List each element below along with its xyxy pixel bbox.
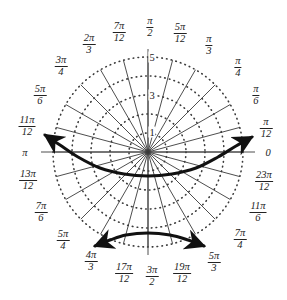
fraction-denominator: 12: [19, 180, 37, 192]
angular-tick-label-ang-2pi3: 2π3: [83, 33, 96, 55]
angular-tick-label-ang-pi6: π6: [252, 84, 259, 106]
fraction-denominator: 4: [55, 66, 68, 78]
angular-tick-label-ang-pi4: π4: [234, 56, 241, 78]
angular-tick-label-ang-23pi12: 23π12: [255, 170, 273, 192]
axis-lines: [41, 49, 255, 255]
fraction-numerator: 3π: [146, 265, 159, 276]
angular-tick-label-ang-7pi4: 7π4: [234, 228, 247, 250]
curve-lower-branch: [95, 233, 204, 246]
fraction-numerator: π: [234, 56, 241, 67]
grid-spoke-300: [148, 152, 196, 234]
angular-tick-label-ang-pi: π: [22, 147, 27, 158]
angular-tick-label-ang-17pi12: 17π12: [115, 262, 133, 284]
grid-spoke-315: [148, 152, 215, 219]
angular-tick-label-ang-5pi3: 5π3: [208, 251, 221, 273]
fraction-numerator: π: [252, 84, 259, 95]
fraction-numerator: π: [260, 117, 273, 128]
grid-spoke-225: [81, 152, 148, 219]
fraction-denominator: 2: [146, 27, 153, 39]
fraction-denominator: 4: [234, 67, 241, 79]
angular-tick-label-ang-0: 0: [265, 147, 270, 158]
grid-spoke-120: [101, 70, 149, 152]
fraction-numerator: π: [205, 34, 212, 45]
fraction-numerator: 7π: [113, 21, 126, 32]
angular-tick-label-ang-pi3: π3: [205, 34, 212, 56]
fraction-numerator: π: [146, 16, 153, 27]
fraction-denominator: 6: [35, 212, 48, 224]
fraction-numerator: 11π: [19, 115, 36, 126]
grid-spoke-285: [148, 152, 173, 244]
fraction-numerator: 2π: [83, 33, 96, 44]
fraction-numerator: 23π: [255, 170, 273, 181]
fraction-numerator: 5π: [174, 22, 187, 33]
fraction-denominator: 6: [252, 95, 259, 107]
angular-tick-label-ang-19pi12: 19π12: [173, 262, 191, 284]
fraction-numerator: 5π: [34, 84, 47, 95]
grid-spoke-135: [81, 85, 148, 152]
grid-spoke-105: [123, 60, 148, 152]
fraction-numerator: 17π: [115, 262, 133, 273]
radial-tick-label-1: 1: [148, 127, 155, 138]
grid-spoke-30: [148, 105, 230, 153]
grid-spoke-15: [148, 127, 240, 152]
fraction-denominator: 3: [208, 262, 221, 274]
fraction-denominator: 3: [205, 45, 212, 57]
angular-tick-label-ang-5pi12: 5π12: [174, 22, 187, 44]
angular-tick-label-ang-13pi12: 13π12: [19, 169, 37, 191]
fraction-denominator: 12: [255, 181, 273, 193]
polar-plot-figure: 531 0π12π6π4π35π12π27π122π33π45π611π12π1…: [0, 0, 287, 300]
fraction-denominator: 12: [173, 273, 191, 285]
angular-tick-label-ang-3pi2: 3π2: [146, 265, 159, 287]
fraction-denominator: 2: [146, 276, 159, 288]
angular-tick-label-ang-11pi12: 11π12: [19, 115, 36, 137]
fraction-denominator: 12: [19, 126, 36, 138]
polar-grid-svg: [0, 0, 287, 300]
grid-spoke-45: [148, 85, 215, 152]
angular-tick-label-ang-3pi4: 3π4: [55, 55, 68, 77]
grid-spoke-150: [66, 105, 148, 153]
fraction-numerator: 11π: [250, 201, 267, 212]
angular-tick-label-ang-7pi12: 7π12: [113, 21, 126, 43]
radial-tick-label-3: 3: [148, 90, 155, 101]
angular-tick-label-ang-5pi4: 5π4: [57, 229, 70, 251]
angular-tick-label-ang-5pi6: 5π6: [34, 84, 47, 106]
grid-spoke-75: [148, 60, 173, 152]
angular-tick-label-ang-7pi6: 7π6: [35, 201, 48, 223]
fraction-denominator: 12: [115, 273, 133, 285]
angular-tick-label-ang-pi12: π12: [260, 117, 273, 139]
fraction-numerator: 13π: [19, 169, 37, 180]
grid-spoke-345: [148, 152, 240, 177]
fraction-denominator: 12: [260, 128, 273, 140]
fraction-denominator: 3: [85, 261, 98, 273]
fraction-numerator: 3π: [55, 55, 68, 66]
fraction-denominator: 3: [83, 44, 96, 56]
angular-tick-label-ang-4pi3: 4π3: [85, 250, 98, 272]
fraction-numerator: 7π: [234, 228, 247, 239]
fraction-numerator: 7π: [35, 201, 48, 212]
fraction-denominator: 6: [250, 212, 267, 224]
grid-spoke-240: [101, 152, 149, 234]
fraction-numerator: 5π: [208, 251, 221, 262]
fraction-denominator: 4: [234, 239, 247, 251]
radial-tick-label-5: 5: [148, 52, 155, 63]
angular-tick-label-ang-11pi6: 11π6: [250, 201, 267, 223]
fraction-denominator: 6: [34, 95, 47, 107]
fraction-numerator: 4π: [85, 250, 98, 261]
fraction-denominator: 12: [113, 32, 126, 44]
fraction-numerator: 5π: [57, 229, 70, 240]
angular-tick-label-ang-pi2: π2: [146, 16, 153, 38]
fraction-denominator: 4: [57, 240, 70, 252]
fraction-denominator: 12: [174, 33, 187, 45]
grid-spoke-195: [56, 152, 148, 177]
fraction-numerator: 19π: [173, 262, 191, 273]
